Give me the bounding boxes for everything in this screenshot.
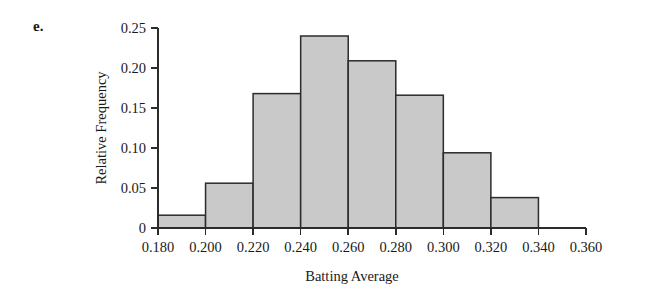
histogram-bar (206, 183, 254, 228)
x-tick-label: 0.340 (522, 239, 555, 255)
y-tick-label: 0.25 (121, 20, 146, 36)
histogram-figure: e. Relative Frequency Batting Average 00… (0, 0, 648, 307)
histogram-bar (301, 36, 349, 228)
x-tick-label: 0.220 (237, 239, 270, 255)
x-tick-label: 0.300 (427, 239, 460, 255)
x-axis: 0.1800.2000.2200.2400.2600.2800.3000.320… (142, 228, 603, 255)
histogram-bar (443, 153, 491, 228)
y-axis: 00.050.100.150.200.25 (121, 20, 158, 236)
y-tick-label: 0.20 (121, 60, 146, 76)
y-tick-label: 0.15 (121, 100, 146, 116)
x-tick-label: 0.320 (475, 239, 508, 255)
plot-area: 00.050.100.150.200.25 0.1800.2000.2200.2… (0, 0, 648, 307)
bars-group (158, 36, 538, 228)
x-tick-label: 0.360 (570, 239, 603, 255)
histogram-bar (396, 95, 444, 228)
histogram-bar (158, 215, 206, 228)
y-tick-label: 0.10 (121, 140, 146, 156)
x-tick-label: 0.180 (142, 239, 175, 255)
histogram-bar (348, 61, 396, 228)
x-tick-label: 0.240 (284, 239, 317, 255)
x-tick-label: 0.200 (189, 239, 222, 255)
histogram-bar (253, 94, 301, 228)
histogram-bar (491, 198, 539, 228)
x-tick-label: 0.260 (332, 239, 365, 255)
x-tick-label: 0.280 (379, 239, 412, 255)
y-tick-label: 0.05 (121, 180, 146, 196)
y-tick-label: 0 (139, 220, 146, 236)
